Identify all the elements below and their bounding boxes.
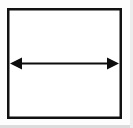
bottom-edge-shading xyxy=(0,125,133,128)
right-edge-shading xyxy=(130,0,133,128)
figure-canvas xyxy=(0,0,133,128)
diagram-svg xyxy=(0,0,133,128)
